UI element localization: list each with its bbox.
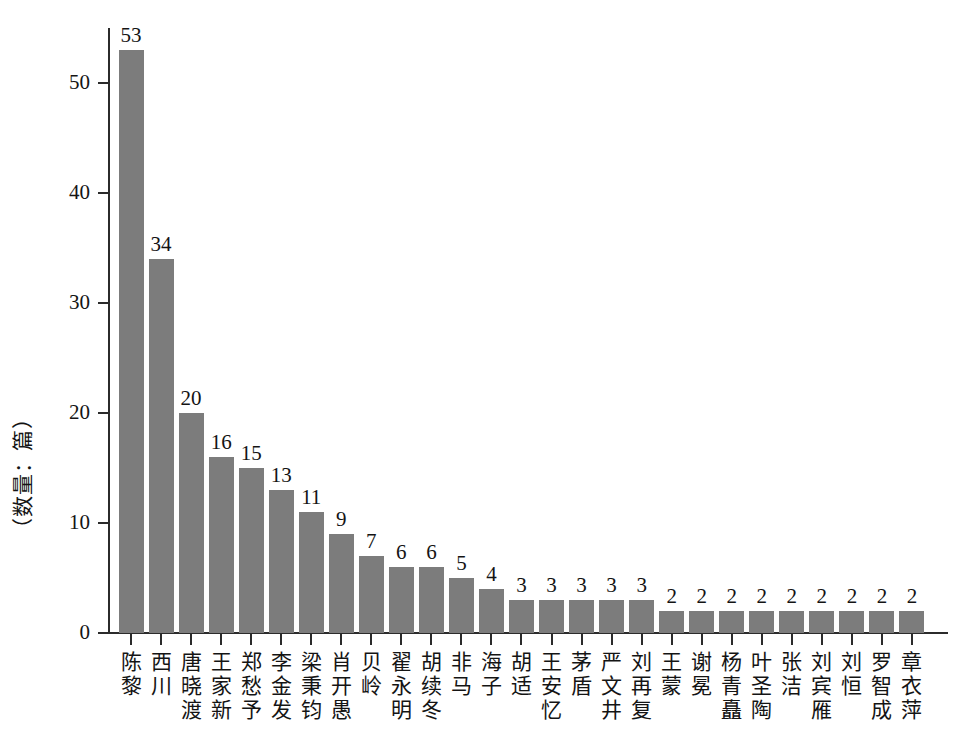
x-tick-label-char: 马 bbox=[446, 674, 476, 698]
x-tick-label: 李金发 bbox=[266, 650, 296, 722]
x-tick-label-char: 茅 bbox=[567, 650, 597, 674]
x-tick-label-char: 刘 bbox=[627, 650, 657, 674]
bar bbox=[329, 534, 354, 633]
x-tick-label-char: 秉 bbox=[296, 674, 326, 698]
bar bbox=[209, 457, 234, 633]
x-tick-label-char: 宾 bbox=[807, 674, 837, 698]
x-tick-label-char: 李 bbox=[266, 650, 296, 674]
x-tick-label-char: 予 bbox=[236, 698, 266, 722]
x-tick-label: 张洁 bbox=[777, 650, 807, 698]
x-tick-label: 肖开愚 bbox=[326, 650, 356, 722]
x-tick-label-char: 智 bbox=[867, 674, 897, 698]
bar bbox=[149, 259, 174, 633]
bar-group: 2 bbox=[747, 28, 777, 633]
bar-value-label: 20 bbox=[171, 388, 211, 409]
x-tick-mark bbox=[851, 634, 853, 645]
x-tick-label-char: 杨 bbox=[717, 650, 747, 674]
bar-group: 2 bbox=[867, 28, 897, 633]
x-tick-label-char: 谢 bbox=[687, 650, 717, 674]
x-tick-label: 章衣萍 bbox=[897, 650, 927, 722]
bar-group: 2 bbox=[687, 28, 717, 633]
bar bbox=[119, 50, 144, 633]
x-tick-label: 刘宾雁 bbox=[807, 650, 837, 722]
x-tick-mark bbox=[641, 634, 643, 645]
bar-value-label: 13 bbox=[261, 465, 301, 486]
plot-area: 5334201615131197665433333222222222 bbox=[110, 28, 948, 633]
x-tick-label-char: 明 bbox=[386, 698, 416, 722]
x-tick-label: 西川 bbox=[146, 650, 176, 698]
bar bbox=[659, 611, 684, 633]
x-tick-label-char: 萍 bbox=[897, 698, 927, 722]
x-tick-label-char: 盾 bbox=[567, 674, 597, 698]
x-tick-label: 梁秉钧 bbox=[296, 650, 326, 722]
x-tick-label-char: 安 bbox=[537, 674, 567, 698]
x-tick-label: 海子 bbox=[476, 650, 506, 698]
x-tick-label-char: 王 bbox=[537, 650, 567, 674]
bar-group: 53 bbox=[116, 28, 146, 633]
x-tick-label-char: 郑 bbox=[236, 650, 266, 674]
bar-group: 4 bbox=[476, 28, 506, 633]
bar-value-label: 2 bbox=[892, 586, 932, 607]
x-tick-label-char: 王 bbox=[206, 650, 236, 674]
x-tick-label: 叶圣陶 bbox=[747, 650, 777, 722]
bar-chart: （数量：篇） 01020304050 533420161513119766543… bbox=[0, 0, 962, 755]
bar bbox=[449, 578, 474, 633]
x-tick-label: 茅盾 bbox=[567, 650, 597, 698]
y-tick-label: 30 bbox=[30, 292, 90, 313]
x-tick-mark bbox=[460, 634, 462, 645]
bar-group: 15 bbox=[236, 28, 266, 633]
x-tick-mark bbox=[400, 634, 402, 645]
x-tick-label: 罗智成 bbox=[867, 650, 897, 722]
x-tick-label: 胡续冬 bbox=[416, 650, 446, 722]
bar-group: 3 bbox=[627, 28, 657, 633]
x-tick-mark bbox=[130, 634, 132, 645]
bar-group: 2 bbox=[837, 28, 867, 633]
bar-group: 3 bbox=[567, 28, 597, 633]
x-tick-label-char: 愚 bbox=[326, 698, 356, 722]
x-tick-label: 贝岭 bbox=[356, 650, 386, 698]
x-tick-label-char: 张 bbox=[777, 650, 807, 674]
bar bbox=[809, 611, 834, 633]
x-tick-label-char: 非 bbox=[446, 650, 476, 674]
x-tick-label-char: 胡 bbox=[416, 650, 446, 674]
x-tick-label-char: 冬 bbox=[416, 698, 446, 722]
x-tick-mark bbox=[370, 634, 372, 645]
x-tick-label-char: 青 bbox=[717, 674, 747, 698]
x-tick-label-char: 翟 bbox=[386, 650, 416, 674]
bar-group: 2 bbox=[897, 28, 927, 633]
x-tick-label-char: 梁 bbox=[296, 650, 326, 674]
x-tick-mark bbox=[220, 634, 222, 645]
x-tick-label-char: 圣 bbox=[747, 674, 777, 698]
y-tick-label: 20 bbox=[30, 402, 90, 423]
x-tick-label: 翟永明 bbox=[386, 650, 416, 722]
x-tick-mark bbox=[430, 634, 432, 645]
bar bbox=[539, 600, 564, 633]
x-tick-mark bbox=[761, 634, 763, 645]
x-tick-label-char: 新 bbox=[206, 698, 236, 722]
bar-group: 16 bbox=[206, 28, 236, 633]
x-tick-mark bbox=[520, 634, 522, 645]
x-tick-label-char: 钧 bbox=[296, 698, 326, 722]
bar-group: 13 bbox=[266, 28, 296, 633]
x-tick-label-char: 西 bbox=[146, 650, 176, 674]
x-tick-mark bbox=[791, 634, 793, 645]
x-tick-label-char: 家 bbox=[206, 674, 236, 698]
bar bbox=[359, 556, 384, 633]
x-tick-label-char: 洁 bbox=[777, 674, 807, 698]
bar-group: 2 bbox=[717, 28, 747, 633]
x-tick-label-char: 井 bbox=[597, 698, 627, 722]
x-tick-mark bbox=[911, 634, 913, 645]
y-tick-mark bbox=[98, 412, 110, 414]
x-tick-label: 陈黎 bbox=[116, 650, 146, 698]
bar bbox=[689, 611, 714, 633]
x-tick-label-char: 愁 bbox=[236, 674, 266, 698]
y-tick-label: 40 bbox=[30, 182, 90, 203]
bar-group: 34 bbox=[146, 28, 176, 633]
x-tick-mark bbox=[611, 634, 613, 645]
bar bbox=[419, 567, 444, 633]
x-tick-mark bbox=[581, 634, 583, 645]
x-tick-label-char: 章 bbox=[897, 650, 927, 674]
x-tick-mark bbox=[701, 634, 703, 645]
bar bbox=[779, 611, 804, 633]
x-tick-mark bbox=[310, 634, 312, 645]
